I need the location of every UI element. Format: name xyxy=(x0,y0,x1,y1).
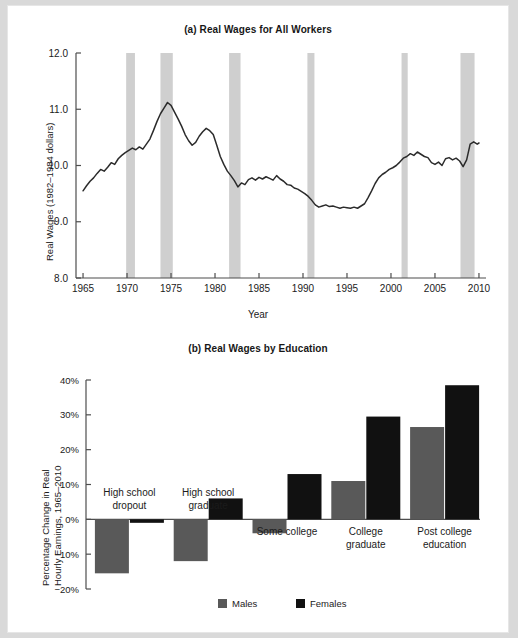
panel-b-ytick-5: 30% xyxy=(60,409,80,420)
panel-a-xtick-0: 1965 xyxy=(72,283,95,294)
panel-a-ytick-4: 12.0 xyxy=(49,48,69,59)
panel-b-y-axis-title-line1: Percentage Change in Real xyxy=(40,466,52,586)
panel-a-xtick-7: 2000 xyxy=(380,283,403,294)
panel-a-tick-labels: 8.09.010.011.012.01965197019751980198519… xyxy=(49,48,491,294)
panel-b-y-axis-title-line2: Hourly Earnings, 1965–2010 xyxy=(52,466,64,586)
legend-item-males-label: Males xyxy=(232,598,258,609)
panel-a: (a) Real Wages for All Workers 8.09.010.… xyxy=(8,6,508,336)
panel-a-xtick-5: 1990 xyxy=(292,283,315,294)
category-label-1-line1: graduate xyxy=(188,500,228,511)
category-label-4-line0: Post college xyxy=(417,526,472,537)
panel-a-xtick-3: 1980 xyxy=(204,283,227,294)
legend-item-males-swatch xyxy=(218,599,227,608)
panel-a-xtick-8: 2005 xyxy=(424,283,447,294)
panel-b-ytick-6: 40% xyxy=(60,375,80,386)
category-label-0-line0: High school xyxy=(103,487,155,498)
bar-females-4 xyxy=(445,385,479,519)
bar-females-3 xyxy=(366,417,400,520)
panel-a-axes xyxy=(76,53,486,278)
bar-males-3 xyxy=(331,481,365,519)
bar-males-1 xyxy=(174,519,208,561)
panel-a-xtick-4: 1985 xyxy=(248,283,271,294)
panel-a-x-axis-title: Year xyxy=(248,309,269,320)
chart-legend: MalesFemales xyxy=(218,598,347,609)
bar-group xyxy=(95,385,479,573)
bar-females-2 xyxy=(288,474,322,519)
panel-a-ytick-0: 8.0 xyxy=(54,273,68,284)
category-label-2-line0: Some college xyxy=(257,526,318,537)
panel-a-xtick-9: 2010 xyxy=(468,283,491,294)
category-label-3-line0: College xyxy=(349,526,383,537)
category-label-3-line1: graduate xyxy=(346,539,386,550)
panel-b-y-axis-title: Percentage Change in Real Hourly Earning… xyxy=(40,466,64,586)
panel-b-plot: High schooldropoutHigh schoolgraduateSom… xyxy=(8,336,508,632)
recession-bands xyxy=(126,53,474,278)
legend-item-females-swatch xyxy=(296,599,305,608)
panel-a-ytick-3: 11.0 xyxy=(49,104,68,115)
legend-item-females-label: Females xyxy=(310,598,347,609)
panel-b-ytick-2: 0% xyxy=(65,514,79,525)
real-wage-line xyxy=(83,103,479,209)
panel-b-ytick-4: 20% xyxy=(60,444,80,455)
panel-a-xtick-6: 1995 xyxy=(336,283,359,294)
line-series-real-hourly-wage xyxy=(83,103,479,209)
panel-a-y-axis-title: Real Wages (1982–1984 dollars) xyxy=(44,122,55,261)
figure-page: (a) Real Wages for All Workers 8.09.010.… xyxy=(8,6,508,632)
category-label-0-line1: dropout xyxy=(112,500,146,511)
panel-a-plot: 8.09.010.011.012.01965197019751980198519… xyxy=(8,6,508,336)
panel-a-xtick-2: 1975 xyxy=(160,283,183,294)
category-label-4-line1: education xyxy=(423,539,466,550)
panel-b: (b) Real Wages by Education High schoold… xyxy=(8,336,508,632)
category-label-1-line0: High school xyxy=(182,487,234,498)
panel-a-ytick-1: 9.0 xyxy=(54,216,68,227)
bar-males-0 xyxy=(95,519,129,573)
bar-males-4 xyxy=(410,427,444,519)
panel-a-xtick-1: 1970 xyxy=(116,283,139,294)
bar-females-0 xyxy=(130,519,164,522)
